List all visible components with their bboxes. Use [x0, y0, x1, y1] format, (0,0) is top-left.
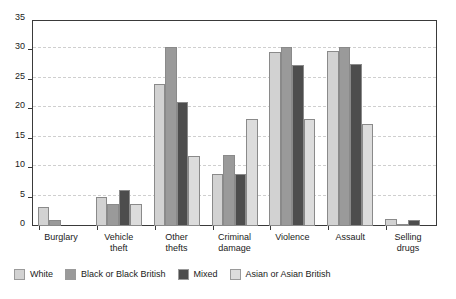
bar: [107, 204, 119, 226]
x-axis-label: Violence: [263, 232, 321, 243]
bar: [130, 204, 142, 226]
x-axis-label: Vehicle theft: [90, 232, 148, 254]
bar: [327, 51, 339, 226]
bar: [362, 124, 374, 226]
bar-group: [212, 20, 258, 226]
y-tick-label: 25: [15, 72, 25, 81]
bar: [38, 207, 50, 226]
x-axis-label: Other thefts: [148, 232, 206, 254]
bar: [292, 65, 304, 226]
y-tick-label: 10: [15, 160, 25, 169]
legend-swatch-icon: [14, 269, 25, 280]
bar-group: [96, 20, 142, 226]
legend-label: Black or Black British: [81, 269, 166, 280]
x-axis-label: Burglary: [32, 232, 90, 243]
bar: [177, 102, 189, 226]
y-tick-label: 35: [15, 13, 25, 22]
bar: [304, 119, 316, 226]
x-axis-label: Selling drugs: [379, 232, 437, 254]
legend-label: Asian or Asian British: [246, 269, 331, 280]
chart-legend: WhiteBlack or Black BritishMixedAsian or…: [14, 269, 343, 280]
x-tick-mark: [39, 226, 40, 230]
legend-item[interactable]: Mixed: [178, 269, 218, 280]
x-tick-mark: [386, 226, 387, 230]
bar-group: [154, 20, 200, 226]
legend-item[interactable]: White: [14, 269, 53, 280]
bar: [212, 174, 224, 226]
y-tick-label: 30: [15, 42, 25, 51]
legend-swatch-icon: [65, 269, 76, 280]
bar: [119, 190, 131, 226]
bar: [165, 47, 177, 227]
bar: [385, 219, 397, 226]
bar: [188, 156, 200, 226]
bar: [96, 197, 108, 226]
bar: [235, 174, 247, 226]
x-tick-mark: [270, 226, 271, 230]
y-tick-label: 20: [15, 101, 25, 110]
bar: [269, 52, 281, 226]
bar: [154, 84, 166, 226]
bar: [246, 119, 258, 226]
x-tick-mark: [213, 226, 214, 230]
bar: [223, 155, 235, 226]
legend-label: White: [30, 269, 53, 280]
bar-group: [385, 20, 431, 226]
bar: [339, 47, 351, 227]
bars-layer: [32, 20, 437, 226]
bar-group: [327, 20, 373, 226]
legend-label: Mixed: [194, 269, 218, 280]
x-tick-mark: [155, 226, 156, 230]
bar-group: [38, 20, 84, 226]
bar: [281, 47, 293, 227]
bar: [350, 64, 362, 226]
y-tick-label: 0: [20, 219, 25, 228]
bar-chart: 05101520253035 BurglaryVehicle theftOthe…: [0, 0, 456, 299]
x-tick-mark: [97, 226, 98, 230]
legend-item[interactable]: Asian or Asian British: [230, 269, 331, 280]
bar-group: [269, 20, 315, 226]
legend-swatch-icon: [230, 269, 241, 280]
x-axis: BurglaryVehicle theftOther theftsCrimina…: [32, 226, 437, 266]
x-tick-mark: [328, 226, 329, 230]
legend-swatch-icon: [178, 269, 189, 280]
y-axis: 05101520253035: [0, 20, 32, 226]
legend-item[interactable]: Black or Black British: [65, 269, 166, 280]
x-axis-label: Criminal damage: [206, 232, 264, 254]
x-axis-label: Assault: [321, 232, 379, 243]
y-tick-label: 5: [20, 190, 25, 199]
y-tick-label: 15: [15, 131, 25, 140]
